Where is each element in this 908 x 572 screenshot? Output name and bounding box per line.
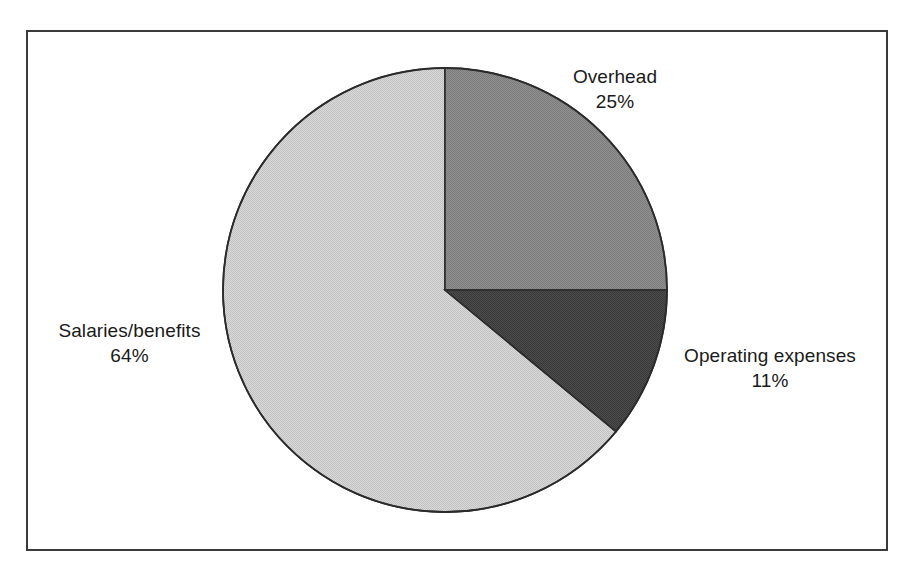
slice-label-operating-expenses-name: Operating expenses [650, 343, 890, 368]
slice-label-salaries-benefits-value: 64% [22, 343, 237, 368]
slice-label-overhead: Overhead 25% [515, 64, 715, 114]
pie-chart-graphic [0, 0, 908, 572]
slice-label-operating-expenses-value: 11% [650, 368, 890, 393]
slice-label-salaries-benefits: Salaries/benefits 64% [22, 318, 237, 368]
pie-chart-figure: Overhead 25% Salaries/benefits 64% Opera… [0, 0, 908, 572]
slice-label-salaries-benefits-name: Salaries/benefits [22, 318, 237, 343]
slice-label-overhead-name: Overhead [515, 64, 715, 89]
slice-label-overhead-value: 25% [515, 89, 715, 114]
slice-label-operating-expenses: Operating expenses 11% [650, 343, 890, 393]
